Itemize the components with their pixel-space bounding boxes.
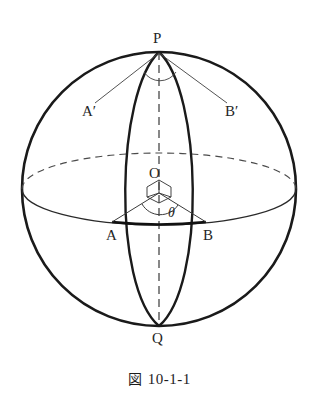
radius-oa bbox=[112, 193, 159, 222]
apex-angle-arc-at-p bbox=[144, 72, 176, 81]
equator-front-solid bbox=[22, 189, 296, 225]
label-angle-theta: θ bbox=[168, 206, 175, 220]
meridian-arc-left bbox=[125, 52, 159, 326]
label-point-a: A bbox=[106, 228, 117, 243]
label-point-a-prime: A′ bbox=[82, 104, 96, 119]
figure-container: P Q O A B A′ B′ θ 図10-1-1 bbox=[0, 0, 319, 404]
leader-line-p-to-b-prime bbox=[159, 53, 227, 103]
label-point-p: P bbox=[153, 31, 161, 46]
meridian-arc-right bbox=[159, 52, 193, 326]
caption-number: 10-1-1 bbox=[148, 371, 191, 387]
label-point-b-prime: B′ bbox=[225, 104, 238, 119]
label-center-o: O bbox=[149, 166, 160, 181]
figure-caption: 図10-1-1 bbox=[0, 368, 319, 388]
label-point-q: Q bbox=[152, 331, 163, 346]
label-point-b: B bbox=[203, 228, 213, 243]
caption-kanji: 図 bbox=[128, 371, 143, 387]
radius-ob bbox=[159, 193, 206, 222]
